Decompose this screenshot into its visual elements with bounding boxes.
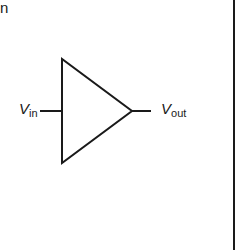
amplifier-diagram [0, 0, 238, 250]
amplifier-triangle-icon [62, 59, 132, 163]
output-label-var: V [161, 100, 171, 117]
input-label-sub: in [29, 107, 38, 119]
output-label-sub: out [171, 107, 186, 119]
input-label: Vin [19, 101, 38, 117]
input-label-var: V [19, 100, 29, 117]
output-label: Vout [161, 101, 186, 117]
